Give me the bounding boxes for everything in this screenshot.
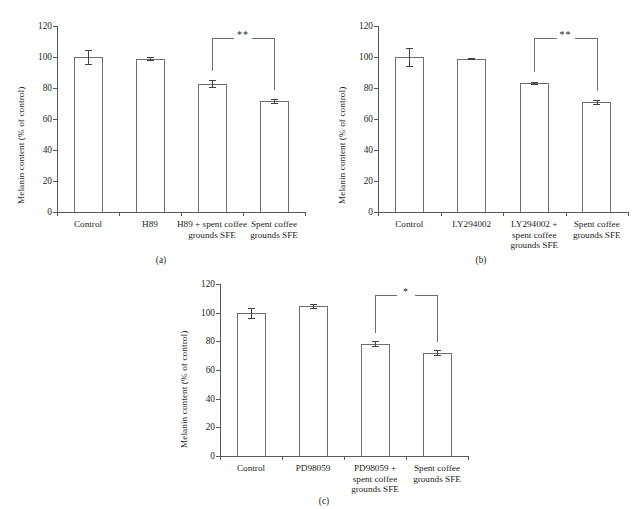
- bar: [74, 57, 103, 212]
- error-bar-cap-top: [434, 350, 441, 351]
- error-bar-cap-top: [406, 48, 413, 49]
- y-axis-tick-label: 120: [347, 21, 373, 31]
- error-bar-cap-bottom: [531, 84, 538, 85]
- panel-caption-a: (a): [4, 255, 318, 265]
- panel-b: 020406080100120Melanin content (% of con…: [322, 6, 640, 268]
- x-axis-tick-mark: [628, 212, 629, 216]
- error-bar-cap-bottom: [85, 64, 92, 65]
- x-axis-tick-mark: [344, 456, 345, 460]
- bar: [260, 101, 289, 212]
- bar: [198, 84, 227, 212]
- bar: [395, 57, 424, 212]
- y-axis-tick-mark: [53, 57, 57, 58]
- panel-c: 020406080100120Melanin content (% of con…: [166, 268, 482, 509]
- error-bar-cap-top: [372, 341, 379, 342]
- y-axis-tick-label: 20: [347, 176, 373, 186]
- y-axis-title: Melanin content (% of control): [179, 331, 189, 448]
- y-axis-tick-mark: [53, 88, 57, 89]
- y-axis-tick-mark: [53, 26, 57, 27]
- y-axis-line: [57, 26, 58, 212]
- x-axis-tick-mark: [441, 212, 442, 216]
- x-axis-tick-label: Spent coffee grounds SFE: [235, 219, 313, 240]
- y-axis-tick-mark: [216, 427, 220, 428]
- y-axis-title: Melanin content (% of control): [16, 87, 26, 204]
- y-axis-tick-label: 40: [189, 394, 215, 404]
- y-axis-tick-mark: [216, 341, 220, 342]
- error-bar-cap-top: [310, 304, 317, 305]
- panel-a: 020406080100120Melanin content (% of con…: [4, 6, 318, 268]
- x-axis-tick-mark: [119, 212, 120, 216]
- x-axis-tick-mark: [243, 212, 244, 216]
- y-axis-tick-mark: [53, 119, 57, 120]
- y-axis-tick-label: 100: [347, 52, 373, 62]
- x-axis-tick-mark: [566, 212, 567, 216]
- bar: [299, 306, 328, 456]
- bar: [423, 353, 452, 456]
- y-axis-tick-label: 60: [347, 114, 373, 124]
- y-axis-title: Melanin content (% of control): [337, 87, 347, 204]
- y-axis-tick-mark: [374, 150, 378, 151]
- error-bar-cap-top: [531, 82, 538, 83]
- x-axis-tick-mark: [305, 212, 306, 216]
- y-axis-tick-label: 40: [347, 145, 373, 155]
- y-axis-line: [220, 284, 221, 456]
- error-bar-cap-bottom: [248, 318, 255, 319]
- bracket-gap-mask: [557, 36, 575, 40]
- y-axis-tick-mark: [374, 26, 378, 27]
- y-axis-tick-label: 100: [26, 52, 52, 62]
- x-axis-tick-mark: [503, 212, 504, 216]
- y-axis-tick-label: 0: [26, 207, 52, 217]
- y-axis-tick-label: 120: [189, 279, 215, 289]
- bracket-gap-mask: [397, 293, 415, 297]
- y-axis-tick-label: 40: [26, 145, 52, 155]
- y-axis-tick-label: 0: [189, 451, 215, 461]
- bar: [136, 59, 165, 212]
- error-bar-cap-top: [271, 99, 278, 100]
- y-axis-tick-mark: [374, 181, 378, 182]
- bar: [582, 102, 611, 212]
- error-bar: [409, 48, 410, 66]
- error-bar-cap-bottom: [593, 104, 600, 105]
- y-axis-tick-label: 100: [189, 308, 215, 318]
- error-bar-cap-top: [593, 100, 600, 101]
- error-bar: [251, 308, 252, 317]
- y-axis-tick-mark: [216, 399, 220, 400]
- y-axis-tick-label: 60: [189, 365, 215, 375]
- y-axis-tick-label: 120: [26, 21, 52, 31]
- error-bar-cap-top: [209, 80, 216, 81]
- error-bar: [212, 80, 213, 87]
- y-axis-tick-label: 80: [347, 83, 373, 93]
- plot-area-b: 020406080100120Melanin content (% of con…: [322, 6, 640, 268]
- y-axis-line: [378, 26, 379, 212]
- y-axis-tick-mark: [374, 88, 378, 89]
- y-axis-tick-mark: [374, 119, 378, 120]
- error-bar-cap-bottom: [310, 308, 317, 309]
- panel-caption-c: (c): [166, 496, 482, 506]
- y-axis-tick-label: 80: [189, 336, 215, 346]
- bar: [361, 344, 390, 456]
- bar: [237, 313, 266, 456]
- x-axis-tick-mark: [468, 456, 469, 460]
- y-axis-tick-mark: [216, 370, 220, 371]
- error-bar-cap-top: [147, 57, 154, 58]
- y-axis-tick-mark: [216, 284, 220, 285]
- error-bar-cap-bottom: [406, 66, 413, 67]
- y-axis-tick-label: 0: [347, 207, 373, 217]
- error-bar-cap-bottom: [434, 355, 441, 356]
- x-axis-tick-mark: [378, 212, 379, 216]
- bracket-gap-mask: [234, 36, 252, 40]
- y-axis-tick-mark: [216, 313, 220, 314]
- y-axis-tick-mark: [53, 150, 57, 151]
- error-bar-cap-top: [248, 308, 255, 309]
- error-bar-cap-top: [85, 50, 92, 51]
- error-bar-cap-top: [468, 58, 475, 59]
- y-axis-tick-mark: [374, 57, 378, 58]
- error-bar-cap-bottom: [147, 60, 154, 61]
- x-axis-tick-mark: [220, 456, 221, 460]
- error-bar-cap-bottom: [372, 346, 379, 347]
- error-bar-cap-bottom: [468, 59, 475, 60]
- y-axis-tick-label: 20: [189, 422, 215, 432]
- y-axis-tick-label: 80: [26, 83, 52, 93]
- bar: [520, 83, 549, 212]
- y-axis-tick-label: 60: [26, 114, 52, 124]
